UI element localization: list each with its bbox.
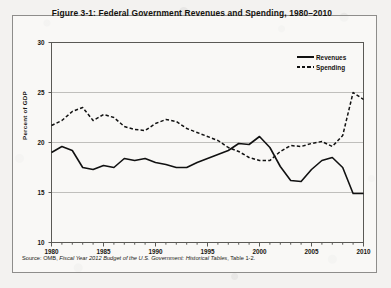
y-tick-label: 15 [25,189,45,196]
x-tick-label: 1985 [89,248,119,255]
y-tick-label: 25 [25,89,45,96]
x-tick-label: 1995 [193,248,223,255]
chart-legend: Revenues Spending [297,52,363,72]
x-tick-label: 2005 [297,248,327,255]
source-suffix: , Table 1-2. [227,255,255,261]
solid-line-icon [297,54,314,60]
legend-item-spending: Spending [297,62,363,72]
legend-item-revenues: Revenues [297,52,363,62]
x-tick-label: 2010 [349,248,379,255]
x-tick-label: 1980 [37,248,67,255]
y-tick-label: 30 [25,39,45,46]
x-tick-label: 2000 [245,248,275,255]
dashed-line-icon [297,64,314,70]
x-tick-label: 1990 [141,248,171,255]
source-publication: Fiscal Year 2012 Budget of the U.S. Gove… [59,255,227,261]
figure-title: Figure 3-1: Federal Government Revenues … [42,8,342,18]
legend-label-spending: Spending [316,64,345,71]
y-tick-label: 10 [25,239,45,246]
source-prefix: Source: OMB, [22,255,59,261]
source-note: Source: OMB, Fiscal Year 2012 Budget of … [22,255,255,261]
y-tick-label: 20 [25,139,45,146]
legend-label-revenues: Revenues [316,54,346,61]
